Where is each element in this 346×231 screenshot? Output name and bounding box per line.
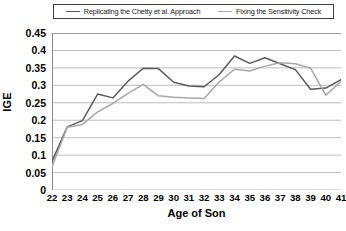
- legend-item-fixing-sensitivity-check: Fixing the Sensitivity Check: [218, 8, 321, 16]
- x-tick-label: 26: [107, 192, 118, 204]
- x-tick-label: 39: [305, 192, 316, 204]
- y-tick-label: 0: [40, 185, 46, 196]
- plot-area: [52, 33, 341, 190]
- x-axis-title: Age of Son: [52, 207, 341, 219]
- x-tick-label: 24: [77, 192, 88, 204]
- gridlines: [52, 33, 341, 190]
- x-tick-label: 32: [199, 192, 210, 204]
- x-tick-label: 37: [275, 192, 286, 204]
- legend-item-replicating-chetty: Replicating the Chetty et al. Approach: [66, 8, 201, 16]
- x-tick-label: 41: [336, 192, 346, 204]
- x-tick-label: 23: [62, 192, 73, 204]
- y-tick-label: 0.05: [26, 167, 46, 178]
- x-tick-label: 29: [153, 192, 164, 204]
- x-tick-label: 27: [123, 192, 134, 204]
- y-tick-label: 0.3: [31, 80, 46, 91]
- x-tick-label: 34: [229, 192, 240, 204]
- plot-svg: [52, 33, 341, 190]
- x-tick-label: 35: [244, 192, 255, 204]
- x-tick-label: 30: [168, 192, 179, 204]
- y-axis-title: IGE: [1, 79, 13, 125]
- legend-swatch-series-0: [66, 11, 80, 12]
- y-tick-label: 0.25: [26, 97, 46, 108]
- legend-swatch-series-1: [218, 11, 232, 12]
- series-line-0: [52, 56, 341, 161]
- y-tick-label: 0.35: [26, 62, 46, 73]
- y-axis-tick-labels: 00.050.10.150.20.250.30.350.40.45: [12, 33, 49, 190]
- x-tick-label: 33: [214, 192, 225, 204]
- y-tick-label: 0.4: [31, 45, 46, 56]
- x-tick-label: 25: [92, 192, 103, 204]
- x-tick-label: 38: [290, 192, 301, 204]
- chart-legend: Replicating the Chetty et al. Approach F…: [53, 4, 334, 19]
- x-tick-label: 31: [184, 192, 195, 204]
- x-tick-label: 40: [320, 192, 331, 204]
- legend-label-series-0: Replicating the Chetty et al. Approach: [84, 8, 201, 16]
- x-tick-label: 22: [47, 192, 58, 204]
- legend-label-series-1: Fixing the Sensitivity Check: [236, 8, 321, 16]
- y-tick-label: 0.1: [31, 150, 46, 161]
- series-lines: [52, 56, 341, 167]
- y-tick-label: 0.45: [26, 28, 46, 39]
- y-tick-label: 0.2: [31, 115, 46, 126]
- x-axis-tick-labels: 2223242526272829303132333435363738394041: [52, 192, 341, 206]
- y-tick-label: 0.15: [26, 132, 46, 143]
- series-line-1: [52, 63, 341, 167]
- x-tick-label: 28: [138, 192, 149, 204]
- x-tick-label: 36: [260, 192, 271, 204]
